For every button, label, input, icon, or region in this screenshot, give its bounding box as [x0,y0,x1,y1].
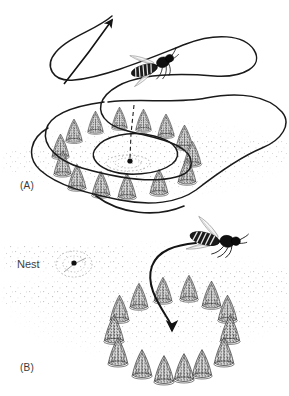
panel-a-label: (A) [20,180,34,191]
nest-label: Nest [17,258,40,270]
panel-b-label: (B) [20,362,34,373]
wasp-navigation-figure [0,0,289,396]
